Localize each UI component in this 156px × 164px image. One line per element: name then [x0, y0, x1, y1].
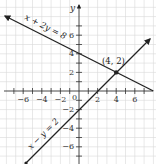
svg-text:4: 4 — [114, 95, 119, 104]
svg-text:−6: −6 — [62, 142, 74, 151]
axes — [4, 5, 153, 164]
intersection-point — [114, 70, 118, 74]
coordinate-graph: −6 −4 −2 0 2 4 6 6 4 2 −2 −4 −6 y x + 2y… — [0, 0, 156, 164]
svg-text:−6: −6 — [17, 95, 29, 104]
x-tick-labels: −6 −4 −2 0 2 4 6 — [17, 93, 137, 104]
intersection-label: (4, 2) — [102, 56, 125, 66]
svg-text:0: 0 — [72, 93, 77, 102]
svg-text:6: 6 — [69, 31, 74, 40]
svg-text:−2: −2 — [62, 105, 74, 114]
svg-text:2: 2 — [95, 95, 100, 104]
svg-text:−4: −4 — [36, 95, 48, 104]
svg-text:2: 2 — [69, 68, 74, 77]
svg-text:−2: −2 — [55, 95, 67, 104]
y-axis-label: y — [69, 3, 76, 13]
svg-text:6: 6 — [132, 95, 137, 104]
